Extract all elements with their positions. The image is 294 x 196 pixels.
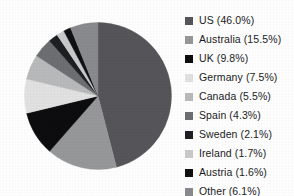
legend-item-us[interactable]: US (46.0%) [185,11,293,30]
legend-item-label: Australia (15.5%) [199,34,281,45]
legend-item-ireland[interactable]: Ireland (1.7%) [185,144,293,163]
legend-item-label: Spain (4.3%) [199,110,261,121]
legend-swatch-icon [185,93,193,101]
legend-swatch-icon [185,150,193,158]
legend-swatch-icon [185,17,193,25]
legend-item-label: Canada (5.5%) [199,91,271,102]
legend-item-label: US (46.0%) [199,15,254,26]
pie-slice-group [25,23,172,170]
legend-item-uk[interactable]: UK (9.8%) [185,49,293,68]
legend-swatch-icon [185,112,193,120]
legend-swatch-icon [185,131,193,139]
pie-chart-plot-area [24,22,172,170]
legend-item-sweden[interactable]: Sweden (2.1%) [185,125,293,144]
legend-item-label: Austria (1.6%) [199,167,267,178]
legend-swatch-icon [185,74,193,82]
pie-svg [24,22,172,170]
legend-item-label: UK (9.8%) [199,53,248,64]
pie-chart-figure: US (46.0%)Australia (15.5%)UK (9.8%)Germ… [0,0,294,196]
legend-item-canada[interactable]: Canada (5.5%) [185,87,293,106]
legend-item-australia[interactable]: Australia (15.5%) [185,30,293,49]
legend-item-austria[interactable]: Austria (1.6%) [185,163,293,182]
legend-item-label: Sweden (2.1%) [199,129,272,140]
legend-swatch-icon [185,36,193,44]
legend-item-label: Ireland (1.7%) [199,148,266,159]
legend-item-spain[interactable]: Spain (4.3%) [185,106,293,125]
legend-item-other[interactable]: Other (6.1%) [185,182,293,196]
chart-legend: US (46.0%)Australia (15.5%)UK (9.8%)Germ… [185,11,293,196]
legend-swatch-icon [185,169,193,177]
legend-item-germany[interactable]: Germany (7.5%) [185,68,293,87]
legend-swatch-icon [185,55,193,63]
legend-swatch-icon [185,188,193,196]
legend-item-label: Other (6.1%) [199,186,260,196]
legend-item-label: Germany (7.5%) [199,72,277,83]
